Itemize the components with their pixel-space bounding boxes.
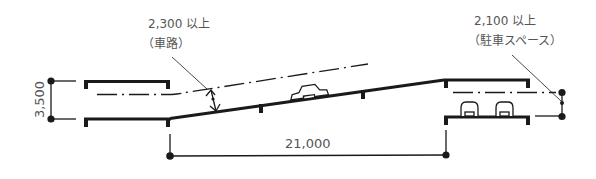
left-upper-slab — [84, 80, 170, 89]
parking-clearance-leader — [512, 55, 561, 101]
parking-clearance-dimension — [535, 89, 566, 120]
right-upper-slab — [444, 79, 530, 88]
car-front-icon — [496, 102, 513, 116]
left-lower-slab — [84, 118, 171, 127]
ramp-clearance-leader — [172, 57, 207, 89]
right-lower-slab — [444, 116, 530, 125]
parking-clearance-note: （駐車スペース） — [468, 34, 562, 48]
floor-height-label: 3,500 — [32, 80, 47, 120]
ramp-clearance-value: 2,300 以上 — [148, 17, 210, 31]
parking-clearance-label: 2,100 以上 （駐車スペース） — [474, 14, 562, 48]
ramp-clearance-arrow — [206, 90, 220, 111]
car-front-icon — [461, 102, 478, 116]
ramp-length-label: 21,000 — [285, 136, 331, 151]
parking-clearance-value: 2,100 以上 — [474, 14, 562, 28]
ramp-clearance-note: （車路） — [142, 37, 210, 51]
ramp-clearance-label: 2,300 以上 （車路） — [148, 17, 210, 51]
floor-height-dimension — [47, 77, 76, 122]
